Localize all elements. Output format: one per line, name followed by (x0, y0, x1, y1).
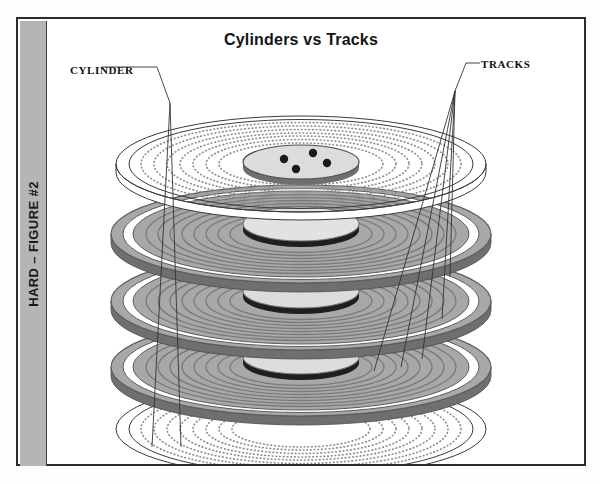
spindle-dot (280, 155, 288, 163)
figure-frame: HARD – FIGURE #2 Cylinders vs Tracks CYL… (16, 17, 586, 466)
spindle-dot (309, 149, 317, 157)
spindle-hub (243, 145, 359, 185)
disk-stack-svg: .dtrack{fill:none;stroke:#909090;stroke-… (18, 19, 584, 464)
screenshot-canvas: HARD – FIGURE #2 Cylinders vs Tracks CYL… (0, 0, 600, 484)
disk-stack-illustration: .dtrack{fill:none;stroke:#909090;stroke-… (18, 19, 584, 464)
spindle-dot (323, 159, 331, 167)
spindle-dot (292, 165, 300, 173)
